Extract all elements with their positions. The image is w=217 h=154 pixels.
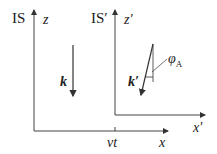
phi-symbol: φ bbox=[168, 51, 176, 66]
phi-subscript: A bbox=[176, 59, 183, 69]
z-axis-label: z bbox=[43, 13, 48, 27]
k-vector-label: k bbox=[60, 75, 67, 89]
k-prime-vector-label: k′ bbox=[128, 75, 139, 89]
x-prime-axis-label: x′ bbox=[193, 121, 202, 135]
z-prime-axis-label: z′ bbox=[124, 13, 133, 27]
k-prime-vector bbox=[141, 44, 153, 95]
diagram-canvas bbox=[0, 0, 217, 154]
frame-is-label: IS bbox=[12, 11, 25, 25]
angle-label: φA bbox=[168, 52, 182, 71]
x-axis-label: x bbox=[159, 136, 165, 150]
angle-leader bbox=[152, 59, 167, 72]
vt-label: vt bbox=[107, 136, 117, 150]
frame-is-prime-label: IS′ bbox=[91, 11, 108, 25]
